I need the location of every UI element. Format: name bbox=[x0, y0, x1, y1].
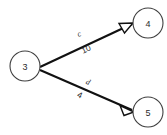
node-3[interactable]: 3 bbox=[10, 51, 40, 81]
graph-diagram-canvas: c 10 d 4 3 4 5 bbox=[0, 0, 167, 135]
edge-c-label: c bbox=[75, 29, 82, 39]
edge-c[interactable]: c 10 bbox=[40, 23, 133, 67]
node-4-label: 4 bbox=[145, 19, 150, 29]
directed-graph-svg: c 10 d 4 3 4 5 bbox=[0, 0, 167, 135]
node-5[interactable]: 5 bbox=[133, 97, 163, 127]
node-4[interactable]: 4 bbox=[133, 8, 163, 38]
edge-d-line bbox=[40, 70, 132, 110]
edge-c-arrowhead-icon bbox=[119, 23, 133, 33]
node-3-label: 3 bbox=[22, 62, 27, 72]
edge-d-weight: 4 bbox=[76, 89, 85, 100]
node-5-label: 5 bbox=[145, 108, 150, 118]
edge-d-label: d bbox=[84, 77, 92, 87]
edge-d[interactable]: d 4 bbox=[40, 70, 134, 116]
